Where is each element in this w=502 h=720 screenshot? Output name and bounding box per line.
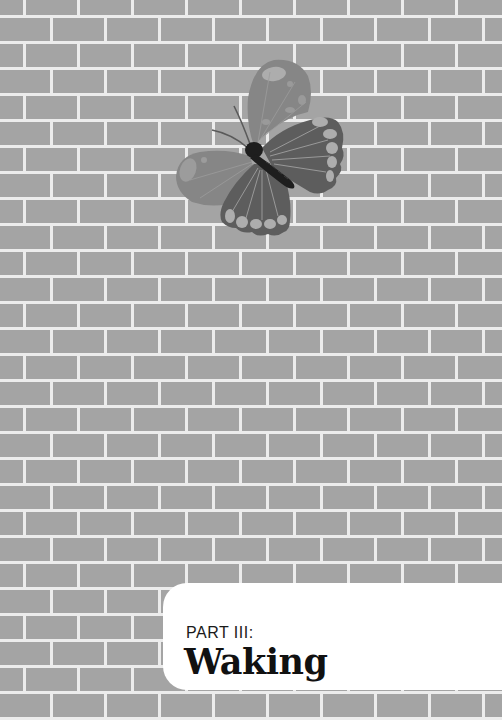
part-label: PART III:	[186, 625, 254, 641]
part-title-page: PART III: Waking	[0, 0, 502, 720]
part-title-panel: PART III: Waking	[163, 583, 502, 690]
part-title: Waking	[184, 644, 327, 679]
butterfly-illustration	[170, 52, 350, 242]
